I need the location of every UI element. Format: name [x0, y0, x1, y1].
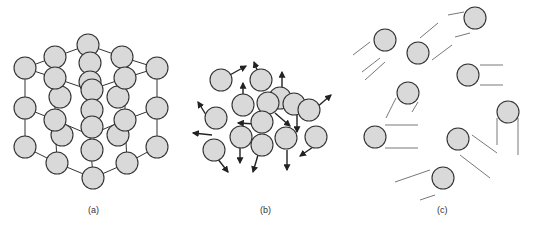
panel-b-liquid: (b)	[193, 62, 331, 215]
states-of-matter-figure: (a)	[0, 0, 533, 232]
panel-a-solid: (a)	[14, 34, 168, 215]
panel-c-gas: (c)	[353, 7, 519, 215]
panel-c-label: (c)	[437, 205, 448, 215]
panel-b-label: (b)	[260, 205, 271, 215]
panel-a-label: (a)	[88, 205, 99, 215]
